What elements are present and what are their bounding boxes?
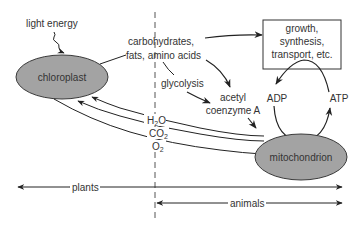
light-energy-label: light energy [26, 18, 78, 29]
carbs-to-acetyl-arrow [206, 60, 230, 87]
glycolysis-label: glycolysis [161, 78, 204, 89]
carbs-to-growth-arrow [205, 35, 262, 38]
growth-box-line2: synthesis, [280, 36, 324, 47]
chloroplast-to-carbs-line [100, 55, 126, 64]
light-energy-squiggle-arrow [53, 32, 64, 53]
energy-diagram: light energy chloroplast carbohydrates, … [0, 0, 364, 228]
chloroplast-label: chloroplast [38, 72, 87, 83]
acetyl-label-line2: coenzyme A [206, 105, 261, 116]
growth-box-line1: growth, [286, 23, 319, 34]
carbs-label-line1: carbohydrates, [128, 36, 194, 47]
growth-box-line3: transport, etc. [271, 49, 332, 60]
acetyl-label-line1: acetyl [220, 92, 246, 103]
mitochondrion-label: mitochondrion [270, 152, 333, 163]
acetyl-to-mitochondrion-arrow [248, 118, 256, 128]
atp-label: ATP [330, 93, 349, 104]
carbs-to-glycolysis-line [163, 62, 174, 75]
glycolysis-to-acetyl-arrow [187, 92, 210, 103]
adp-label: ADP [267, 93, 288, 104]
animals-label: animals [230, 198, 264, 209]
plants-label: plants [72, 182, 99, 193]
carbs-label-line2: fats, amino acids [126, 50, 201, 61]
